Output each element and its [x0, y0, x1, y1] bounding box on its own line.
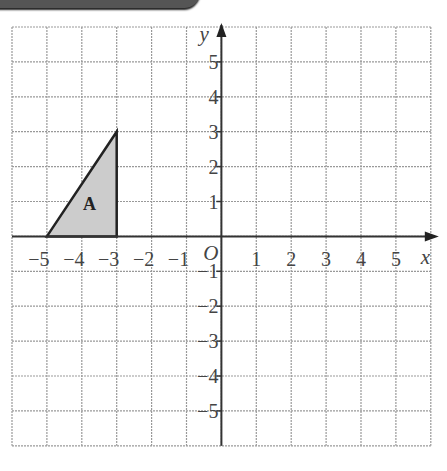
y-tick-label: −4 — [197, 365, 218, 387]
y-tick-label: −3 — [197, 330, 218, 352]
y-tick-label: 5 — [208, 51, 218, 73]
x-axis-arrow — [425, 231, 439, 241]
y-tick-label: 3 — [208, 121, 218, 143]
x-tick-label: 5 — [391, 248, 401, 270]
y-tick-label: −5 — [197, 400, 218, 422]
x-tick-label: −2 — [133, 248, 154, 270]
y-tick-label: 4 — [208, 86, 218, 108]
y-tick-label: 2 — [208, 156, 218, 178]
x-tick-label: −1 — [168, 248, 189, 270]
x-tick-label: −5 — [28, 248, 49, 270]
shape-label: A — [83, 194, 96, 214]
x-tick-label: 4 — [356, 248, 366, 270]
y-tick-label: −2 — [197, 295, 218, 317]
y-axis-label: y — [197, 22, 209, 46]
x-tick-label: −3 — [98, 248, 119, 270]
x-tick-label: 2 — [286, 248, 296, 270]
x-axis-label: x — [420, 245, 431, 269]
origin-label: O — [203, 241, 218, 265]
y-axis-arrow — [216, 23, 226, 37]
x-tick-label: −4 — [63, 248, 84, 270]
y-tick-label: 1 — [208, 191, 218, 213]
x-tick-label: 1 — [251, 248, 261, 270]
x-tick-label: 3 — [321, 248, 331, 270]
coordinate-grid: A−5−4−3−2−11234554321−1−2−3−4−5xyO — [0, 0, 447, 471]
